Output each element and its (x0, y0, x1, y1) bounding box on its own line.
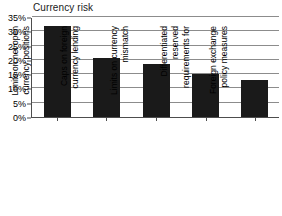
x-axis-label-line: Caps on foreign (59, 26, 70, 120)
chart-title: Currency risk (33, 2, 93, 14)
x-axis-label-line: reserved (170, 26, 181, 120)
x-label-slot: Differentiatedreservedrequirements for (181, 119, 231, 215)
x-axis-label: Limits on currencymismatch (109, 26, 131, 120)
x-label-slot: Limits on currencymismatch (131, 119, 181, 215)
x-axis-label-line: currency lending (70, 26, 81, 120)
x-tick-mark (206, 118, 207, 121)
bar[interactable] (241, 80, 268, 117)
x-axis-label-line: Differentiated (159, 26, 170, 120)
x-axis-category-labels: Limits on net opencurrency positionsCaps… (32, 119, 280, 215)
x-axis-label: Limits on net opencurrency positions (10, 26, 32, 120)
x-axis-label: Foreign exchangepolicy measures (208, 26, 230, 120)
x-axis-label-line: Foreign exchange (208, 26, 219, 120)
y-tick-label: 35% (8, 14, 26, 23)
x-tick-mark (156, 118, 157, 121)
x-axis-label: Differentiatedreservedrequirements for (159, 26, 192, 120)
x-axis-label-line: currency positions (21, 26, 32, 120)
x-tick-mark (255, 118, 256, 121)
bar-slot (230, 18, 279, 117)
x-axis-label: Caps on foreigncurrency lending (59, 26, 81, 120)
x-tick-mark (57, 118, 58, 121)
currency-risk-bar-chart: Currency risk 0%5%10%15%20%25%30%35% Lim… (0, 0, 282, 216)
gridline (32, 16, 279, 17)
x-label-slot: Limits on net opencurrency positions (32, 119, 82, 215)
x-axis-label-line: mismatch (120, 26, 131, 120)
x-label-slot: Caps on foreigncurrency lending (82, 119, 132, 215)
x-tick-mark (106, 118, 107, 121)
x-axis-label-line: Limits on net open (10, 26, 21, 120)
x-axis-label-line: policy measures (219, 26, 230, 120)
x-label-slot: Foreign exchangepolicy measures (230, 119, 280, 215)
x-axis-label-line: requirements for (181, 26, 192, 120)
x-axis-label-line: Limits on currency (109, 26, 120, 120)
